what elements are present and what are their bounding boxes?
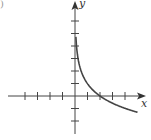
- graph: [0, 0, 151, 140]
- x-axis-label: x: [141, 97, 147, 110]
- y-axis-label: y: [79, 0, 85, 10]
- curve: [76, 37, 138, 112]
